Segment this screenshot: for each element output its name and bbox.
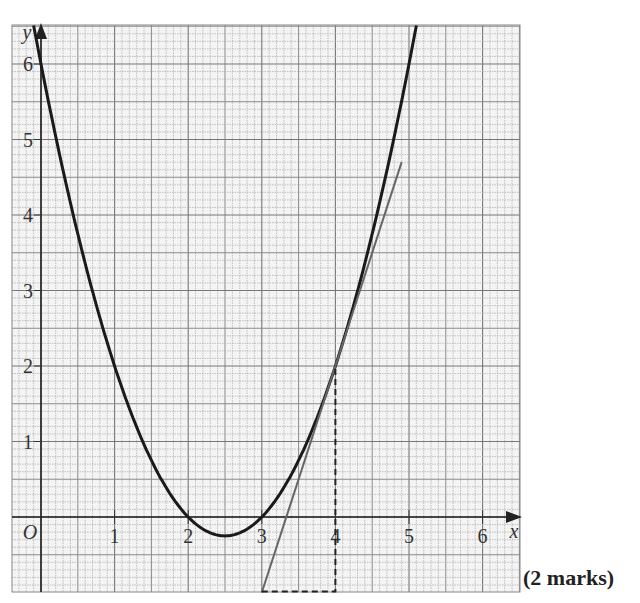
- svg-text:3: 3: [257, 525, 267, 547]
- svg-text:1: 1: [23, 431, 33, 453]
- svg-text:3: 3: [23, 280, 33, 302]
- svg-text:1: 1: [110, 525, 120, 547]
- svg-text:6: 6: [478, 525, 488, 547]
- svg-text:4: 4: [23, 204, 33, 226]
- svg-text:x: x: [509, 520, 519, 542]
- svg-text:5: 5: [23, 129, 33, 151]
- svg-text:5: 5: [404, 525, 414, 547]
- grid: [12, 25, 520, 592]
- svg-text:y: y: [21, 21, 32, 44]
- svg-text:2: 2: [183, 525, 193, 547]
- svg-text:6: 6: [23, 53, 33, 75]
- svg-text:2: 2: [23, 355, 33, 377]
- marks-label: (2 marks): [523, 565, 614, 591]
- chart-plot: 123456123456Oxy: [0, 0, 640, 603]
- svg-text:O: O: [23, 521, 37, 543]
